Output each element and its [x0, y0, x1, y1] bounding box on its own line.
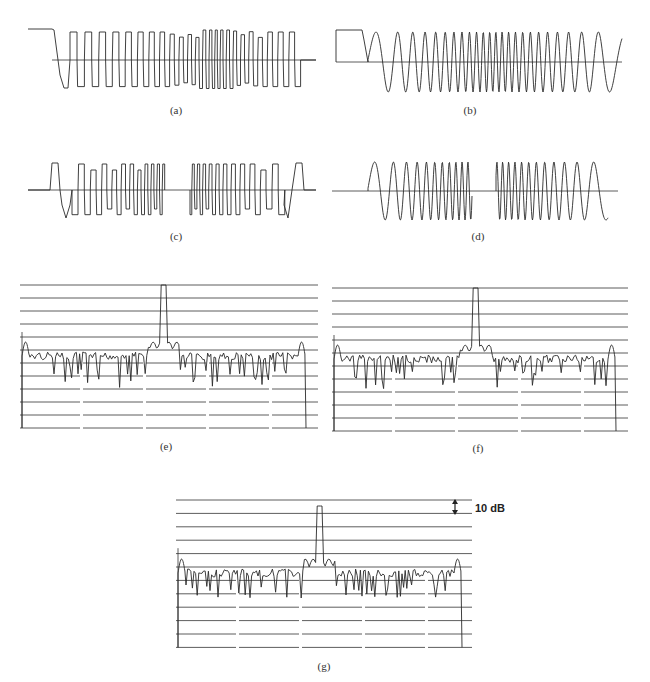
panel-label-e: (e)	[146, 440, 186, 452]
panel-g: 10 dB (g)	[160, 460, 520, 682]
panel-label-g: (g)	[304, 660, 344, 672]
waveform-d	[320, 130, 650, 240]
panel-c: (c)	[0, 130, 330, 240]
panel-b: (b)	[320, 0, 650, 120]
panel-f: (f)	[320, 240, 650, 460]
scale-label: 10 dB	[475, 502, 505, 514]
waveform-a	[0, 0, 330, 120]
waveform-b	[320, 0, 650, 120]
spectrum-g	[160, 460, 520, 682]
panel-label-a: (a)	[156, 104, 196, 116]
spectrum-f	[320, 240, 650, 460]
panel-a: (a)	[0, 0, 330, 120]
panel-d: (d)	[320, 130, 650, 240]
panel-label-b: (b)	[450, 104, 490, 116]
spectrum-e	[0, 240, 330, 460]
waveform-c	[0, 130, 330, 240]
panel-e: (e)	[0, 240, 330, 460]
scale-arrow-icon	[452, 499, 458, 515]
panel-label-f: (f)	[458, 442, 498, 454]
